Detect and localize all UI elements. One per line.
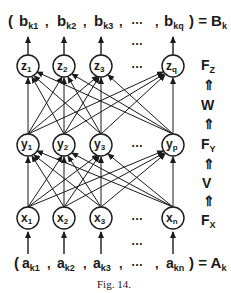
output-close: ) = Bk — [189, 12, 228, 31]
figure-caption: Fig. 14. — [97, 278, 131, 290]
node-z1: z1 — [17, 55, 39, 77]
output-vector: ( bk1 , bk2 , bk3 , … , bkq ) = Bk — [8, 12, 228, 31]
node-xn: xn — [162, 207, 184, 229]
edges-x-to-y — [28, 151, 173, 207]
node-y1: y1 — [17, 134, 39, 156]
output-bq: bkq — [164, 12, 184, 31]
comma: , — [155, 14, 159, 29]
node-x2: x2 — [53, 207, 75, 229]
node-x3: x3 — [90, 207, 112, 229]
node-z2: z2 — [53, 55, 75, 77]
comma: , — [119, 256, 123, 271]
node-x1: x1 — [17, 207, 39, 229]
double-arrow-icon: ⇑ — [203, 156, 215, 172]
node-z3: z3 — [90, 55, 112, 77]
field-fy-label: FY — [201, 136, 216, 154]
input-close: ) = Ak — [189, 254, 227, 273]
edges-y-to-z — [28, 72, 173, 134]
comma: , — [83, 14, 87, 29]
y-ellipsis: … — [131, 136, 143, 150]
double-arrow-icon: ⇑ — [203, 77, 215, 93]
node-y3: y3 — [90, 134, 112, 156]
comma: , — [119, 14, 123, 29]
output-ellipsis: … — [131, 13, 143, 27]
mid-ellipsis-bottom: … — [131, 234, 143, 248]
input-arrows — [28, 232, 173, 254]
output-b3: bk3 — [94, 12, 113, 31]
bam-network-diagram: ( bk1 , bk2 , bk3 , … , bkq ) = Bk … — [0, 0, 231, 293]
output-open-paren: ( — [8, 12, 13, 29]
node-yp: yp — [162, 134, 184, 156]
layer-x: x1 x2 x3 … xn — [17, 207, 184, 229]
input-an: akn — [166, 255, 184, 273]
comma: , — [45, 14, 49, 29]
double-arrow-icon: ⇑ — [203, 116, 215, 132]
weight-w-label: W — [201, 97, 215, 113]
input-open-paren: ( — [14, 254, 19, 271]
input-a3: ak3 — [93, 255, 111, 273]
z-ellipsis: … — [131, 57, 143, 71]
output-b2: bk2 — [57, 12, 76, 31]
weight-v-label: V — [202, 175, 212, 191]
double-arrow-icon: ⇑ — [203, 193, 215, 209]
x-ellipsis: … — [131, 209, 143, 223]
output-arrows — [28, 37, 173, 55]
node-y2: y2 — [53, 134, 75, 156]
input-a1: ak1 — [22, 255, 40, 273]
input-vector: ( ak1 , ak2 , ak3 , … , akn ) = Ak — [14, 254, 227, 273]
comma: , — [47, 256, 51, 271]
field-labels: FZ ⇑ W ⇑ FY ⇑ V ⇑ FX — [201, 57, 216, 230]
field-fx-label: FX — [201, 212, 216, 230]
comma: , — [83, 256, 87, 271]
node-zq: zq — [162, 55, 184, 77]
field-fz-label: FZ — [201, 57, 216, 75]
mid-ellipsis-top: … — [131, 34, 143, 48]
input-a2: ak2 — [57, 255, 75, 273]
input-ellipsis: … — [131, 255, 143, 269]
output-b1: bk1 — [19, 12, 38, 31]
comma: , — [155, 256, 159, 271]
